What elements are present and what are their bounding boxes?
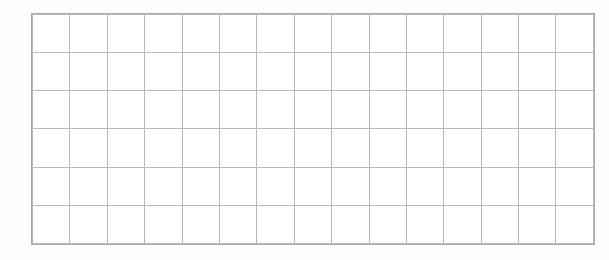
grid-cell[interactable] xyxy=(257,15,294,53)
grid-cell[interactable] xyxy=(70,91,107,129)
grid-cell[interactable] xyxy=(556,15,593,53)
grid-cell[interactable] xyxy=(145,205,182,243)
grid-cell[interactable] xyxy=(257,205,294,243)
grid-cell[interactable] xyxy=(219,15,256,53)
grid-cell[interactable] xyxy=(406,91,443,129)
grid-cell[interactable] xyxy=(444,53,481,91)
grid-cell[interactable] xyxy=(70,167,107,205)
grid-cell[interactable] xyxy=(556,91,593,129)
grid-cell[interactable] xyxy=(257,91,294,129)
document-page xyxy=(0,0,609,260)
grid-cell[interactable] xyxy=(481,15,518,53)
grid-cell[interactable] xyxy=(519,53,556,91)
grid-cell[interactable] xyxy=(219,167,256,205)
grid-cell[interactable] xyxy=(33,15,70,53)
grid-cell[interactable] xyxy=(406,167,443,205)
grid-cell[interactable] xyxy=(369,129,406,167)
grid-cell[interactable] xyxy=(556,53,593,91)
grid-cell[interactable] xyxy=(33,205,70,243)
grid-cell[interactable] xyxy=(481,167,518,205)
grid-cell[interactable] xyxy=(33,91,70,129)
grid-cell[interactable] xyxy=(481,91,518,129)
table-row xyxy=(33,15,594,53)
grid-cell[interactable] xyxy=(182,91,219,129)
grid-cell[interactable] xyxy=(107,167,144,205)
grid-cell[interactable] xyxy=(444,15,481,53)
grid-cell[interactable] xyxy=(145,15,182,53)
grid-cell[interactable] xyxy=(519,15,556,53)
grid-cell[interactable] xyxy=(444,205,481,243)
grid-cell[interactable] xyxy=(369,15,406,53)
grid-cell[interactable] xyxy=(294,205,331,243)
grid-cell[interactable] xyxy=(294,129,331,167)
grid-cell[interactable] xyxy=(70,53,107,91)
grid-cell[interactable] xyxy=(369,91,406,129)
table-row xyxy=(33,91,594,129)
grid-cell[interactable] xyxy=(70,15,107,53)
grid-cell[interactable] xyxy=(219,91,256,129)
grid-cell[interactable] xyxy=(182,15,219,53)
grid-cell[interactable] xyxy=(257,129,294,167)
grid-cell[interactable] xyxy=(406,53,443,91)
grid-cell[interactable] xyxy=(107,91,144,129)
grid-cell[interactable] xyxy=(145,129,182,167)
grid-cell[interactable] xyxy=(481,129,518,167)
grid-cell[interactable] xyxy=(145,91,182,129)
grid-cell[interactable] xyxy=(519,91,556,129)
grid-cell[interactable] xyxy=(332,167,369,205)
grid-cell[interactable] xyxy=(257,167,294,205)
grid-cell[interactable] xyxy=(556,129,593,167)
grid-cell[interactable] xyxy=(182,167,219,205)
grid-cell[interactable] xyxy=(219,205,256,243)
table-row xyxy=(33,53,594,91)
grid-cell[interactable] xyxy=(294,15,331,53)
grid-cell[interactable] xyxy=(257,53,294,91)
grid-cell[interactable] xyxy=(219,129,256,167)
grid-cell[interactable] xyxy=(70,205,107,243)
grid-cell[interactable] xyxy=(332,91,369,129)
grid-cell[interactable] xyxy=(444,91,481,129)
grid-cell[interactable] xyxy=(219,53,256,91)
grid-cell[interactable] xyxy=(556,167,593,205)
grid-cell[interactable] xyxy=(369,205,406,243)
grid-cell[interactable] xyxy=(519,167,556,205)
grid-cell[interactable] xyxy=(33,129,70,167)
grid-cell[interactable] xyxy=(107,205,144,243)
grid-cell[interactable] xyxy=(519,129,556,167)
grid-cell[interactable] xyxy=(145,167,182,205)
grid-cell[interactable] xyxy=(107,129,144,167)
blank-grid-table xyxy=(32,14,594,244)
grid-cell[interactable] xyxy=(556,205,593,243)
table-row xyxy=(33,167,594,205)
grid-cell[interactable] xyxy=(406,205,443,243)
grid-cell[interactable] xyxy=(481,205,518,243)
grid-cell[interactable] xyxy=(406,129,443,167)
grid-cell[interactable] xyxy=(33,167,70,205)
grid-cell[interactable] xyxy=(294,167,331,205)
table-row xyxy=(33,129,594,167)
grid-body xyxy=(33,15,594,244)
grid-cell[interactable] xyxy=(519,205,556,243)
grid-cell[interactable] xyxy=(332,53,369,91)
grid-cell[interactable] xyxy=(294,91,331,129)
grid-cell[interactable] xyxy=(145,53,182,91)
grid-cell[interactable] xyxy=(406,15,443,53)
grid-cell[interactable] xyxy=(444,167,481,205)
table-row xyxy=(33,205,594,243)
grid-cell[interactable] xyxy=(182,53,219,91)
grid-cell[interactable] xyxy=(70,129,107,167)
grid-cell[interactable] xyxy=(294,53,331,91)
grid-cell[interactable] xyxy=(182,129,219,167)
grid-cell[interactable] xyxy=(332,15,369,53)
grid-cell[interactable] xyxy=(107,53,144,91)
grid-cell[interactable] xyxy=(444,129,481,167)
grid-cell[interactable] xyxy=(107,15,144,53)
grid-cell[interactable] xyxy=(182,205,219,243)
grid-cell[interactable] xyxy=(369,53,406,91)
grid-cell[interactable] xyxy=(332,129,369,167)
grid-cell[interactable] xyxy=(481,53,518,91)
grid-cell[interactable] xyxy=(369,167,406,205)
grid-cell[interactable] xyxy=(332,205,369,243)
grid-cell[interactable] xyxy=(33,53,70,91)
